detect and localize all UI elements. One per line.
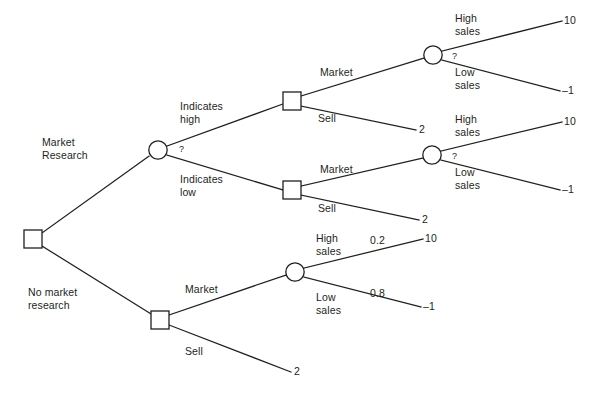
node-chance-sales-upper[interactable] [424, 46, 442, 64]
label-chance-marker-sales-lower: ? [452, 151, 457, 161]
label-no-market-research: No market research [28, 286, 77, 311]
label-probability-high-sales: 0.2 [370, 234, 385, 247]
label-probability-low-sales: 0.8 [370, 287, 385, 300]
payoff-high-sales-2: 10 [564, 115, 576, 128]
label-chance-marker-sales-upper: ? [452, 51, 457, 61]
node-decision-indicates-low[interactable] [283, 181, 301, 199]
node-chance-research-outcome[interactable] [149, 141, 167, 159]
label-sell-upper: Sell [318, 112, 336, 125]
decision-tree-diagram: Market Research No market research Indic… [0, 0, 593, 398]
payoff-sell-upper: 2 [419, 123, 425, 136]
payoff-low-sales-3: –1 [423, 300, 435, 313]
node-chance-sales-lower[interactable] [423, 146, 441, 164]
node-decision-no-research[interactable] [151, 311, 169, 329]
payoff-low-sales-1: –1 [562, 84, 574, 97]
label-market-research: Market Research [42, 136, 88, 161]
payoff-low-sales-2: –1 [562, 183, 574, 196]
label-chance-marker-research: ? [179, 144, 184, 154]
payoff-high-sales-1: 10 [564, 14, 576, 27]
payoff-sell-no-research: 2 [294, 365, 300, 378]
label-indicates-high: Indicates high [180, 100, 223, 125]
label-indicates-low: Indicates low [180, 173, 223, 198]
label-market-lower: Market [320, 163, 353, 176]
label-low-sales-2: Low sales [455, 166, 480, 191]
node-decision-indicates-high[interactable] [283, 92, 301, 110]
node-chance-sales-no-research[interactable] [286, 263, 304, 281]
label-high-sales-2: High sales [455, 113, 480, 138]
label-market-upper: Market [320, 66, 353, 79]
label-sell-lower: Sell [318, 202, 336, 215]
label-high-sales-3: High sales [316, 232, 341, 257]
label-market-no-research: Market [185, 283, 218, 296]
label-high-sales-1: High sales [455, 12, 480, 37]
label-low-sales-1: Low sales [455, 66, 480, 91]
label-sell-no-research: Sell [185, 345, 203, 358]
label-low-sales-3: Low sales [316, 291, 341, 316]
tree-edges-and-nodes [0, 0, 593, 398]
payoff-high-sales-3: 10 [425, 232, 437, 245]
node-root-decision[interactable] [24, 230, 42, 248]
edge-market-research [42, 156, 149, 233]
payoff-sell-lower: 2 [422, 213, 428, 226]
